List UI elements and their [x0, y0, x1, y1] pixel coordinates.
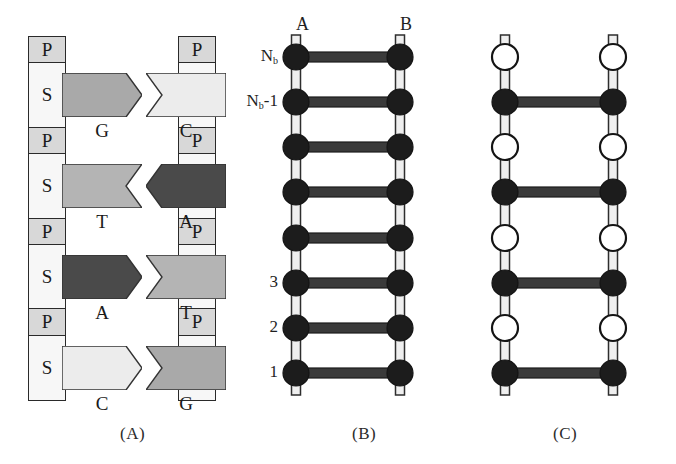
ladder-node-filled-right — [387, 179, 413, 205]
ladder-node-filled-right — [387, 315, 413, 341]
base-pair-rung — [505, 368, 613, 378]
panel-b: AB NbNb-1321 — [230, 0, 445, 464]
backbone-block-label: S — [42, 84, 53, 106]
base-pair-rung — [296, 187, 400, 197]
base-letter-label: G — [62, 120, 142, 142]
rung-index-label: Nb — [230, 46, 278, 66]
left-backbone-sugar: S — [28, 244, 66, 310]
base-arrow-shape — [146, 164, 226, 208]
rung-index-subscript: b — [259, 100, 264, 111]
ladder-node-filled-left — [283, 179, 309, 205]
strand-label-b: B — [400, 14, 412, 35]
ladder-node-filled-left — [283, 225, 309, 251]
rung-index-suffix: -1 — [264, 91, 278, 110]
rung-index-label: 2 — [230, 317, 278, 337]
base-arrow-shape — [146, 255, 226, 299]
base-g-right — [146, 346, 226, 390]
ladder-node-open-left — [492, 44, 518, 70]
ladder-node-open-right — [600, 315, 626, 341]
ladder-node-filled-left — [492, 89, 518, 115]
base-letter-label: T — [146, 302, 226, 324]
backbone-block-label: P — [42, 221, 53, 243]
ladder-node-filled-right — [600, 360, 626, 386]
panel-caption-b: (B) — [352, 424, 376, 444]
base-arrow-shape — [62, 164, 142, 208]
rung-index-label: 1 — [230, 362, 278, 382]
rung-index-subscript: b — [273, 55, 278, 66]
ladder-node-filled-right — [387, 44, 413, 70]
base-letter-label: C — [62, 393, 142, 415]
ladder-node-filled-left — [492, 179, 518, 205]
strand-label-a: A — [296, 14, 309, 35]
base-letter-label: T — [62, 211, 142, 233]
base-letter-label: G — [146, 393, 226, 415]
base-arrow-shape — [62, 346, 142, 390]
base-pair-rung — [296, 278, 400, 288]
left-backbone-sugar: S — [28, 153, 66, 219]
base-letter-label: A — [146, 211, 226, 233]
ladder-node-filled-right — [387, 360, 413, 386]
backbone-block-label: P — [42, 311, 53, 333]
left-backbone-phosphate: P — [28, 218, 66, 246]
base-g-left — [62, 73, 142, 117]
ladder-node-filled-right — [387, 89, 413, 115]
base-pair-rung — [505, 187, 613, 197]
base-pair-rung — [296, 323, 400, 333]
backbone-block-label: S — [42, 357, 53, 379]
backbone-block-label: S — [42, 175, 53, 197]
backbone-block-label: P — [42, 130, 53, 152]
backbone-block-label: P — [192, 39, 203, 61]
ladder-diagram-b — [230, 0, 445, 464]
base-pair-rung — [505, 97, 613, 107]
base-a-right — [146, 164, 226, 208]
rung-index-base: 3 — [270, 272, 279, 291]
rung-index-base: 1 — [270, 362, 279, 381]
ladder-diagram-c — [445, 0, 676, 464]
right-backbone-phosphate: P — [178, 36, 216, 64]
ladder-node-filled-right — [600, 179, 626, 205]
ladder-node-filled-left — [492, 360, 518, 386]
rung-index-label: Nb-1 — [230, 91, 278, 111]
panel-caption-c: (C) — [553, 424, 577, 444]
ladder-node-filled-right — [600, 270, 626, 296]
left-backbone-phosphate: P — [28, 36, 66, 64]
base-pair-rung — [296, 142, 400, 152]
base-arrow-shape — [146, 73, 226, 117]
base-arrow-shape — [62, 255, 142, 299]
rung-index-base: N — [247, 91, 259, 110]
panel-caption-a: (A) — [120, 424, 145, 444]
ladder-node-open-left — [492, 315, 518, 341]
base-pair-rung — [296, 368, 400, 378]
base-pair-rung — [296, 97, 400, 107]
base-t-right — [146, 255, 226, 299]
ladder-node-open-left — [492, 225, 518, 251]
ladder-node-filled-right — [387, 270, 413, 296]
base-t-left — [62, 164, 142, 208]
ladder-node-open-right — [600, 225, 626, 251]
ladder-node-open-left — [492, 134, 518, 160]
rung-index-label: 3 — [230, 272, 278, 292]
ladder-node-filled-right — [387, 134, 413, 160]
base-c-right — [146, 73, 226, 117]
left-backbone-sugar: S — [28, 62, 66, 128]
ladder-node-filled-right — [387, 225, 413, 251]
ladder-node-filled-left — [492, 270, 518, 296]
base-letter-label: C — [146, 120, 226, 142]
ladder-node-open-right — [600, 134, 626, 160]
left-backbone-phosphate: P — [28, 308, 66, 336]
left-backbone-phosphate: P — [28, 127, 66, 155]
rung-index-base: 2 — [270, 317, 279, 336]
ladder-node-filled-left — [283, 315, 309, 341]
panel-c — [445, 0, 676, 464]
ladder-node-filled-left — [283, 134, 309, 160]
panel-a: PSPSPSPS PSPSPSPS GCTAATCG — [0, 0, 230, 464]
ladder-node-open-right — [600, 44, 626, 70]
rung-index-base: N — [261, 46, 273, 65]
dna-figure: PSPSPSPS PSPSPSPS GCTAATCG AB NbNb-1321 … — [0, 0, 676, 464]
backbone-block-label: P — [42, 39, 53, 61]
ladder-node-filled-left — [283, 270, 309, 296]
base-pair-rung — [296, 52, 400, 62]
base-c-left — [62, 346, 142, 390]
base-arrow-shape — [62, 73, 142, 117]
ladder-node-filled-left — [283, 44, 309, 70]
